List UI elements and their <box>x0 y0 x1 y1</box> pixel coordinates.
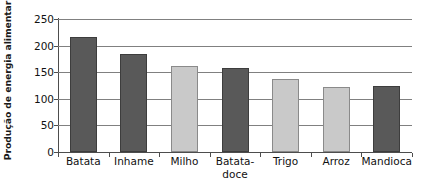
x-axis-line <box>58 152 412 153</box>
x-axis-category-label-line: doce <box>206 168 265 181</box>
y-axis-tick-label: 200 <box>18 40 54 51</box>
bar <box>323 87 350 152</box>
bar <box>171 66 198 152</box>
x-axis-category-label-line: Mandioca <box>357 155 416 168</box>
bar <box>120 54 147 152</box>
bar <box>222 68 249 152</box>
y-axis-tick-label: 100 <box>18 94 54 105</box>
y-axis-tick-label: 150 <box>18 67 54 78</box>
y-axis-title-text: Produção de energia alimentar <box>3 0 14 160</box>
y-axis-tick-label: 0 <box>18 147 54 158</box>
plot-area <box>58 19 412 152</box>
y-axis-tick-label: 50 <box>18 120 54 131</box>
x-axis-category-labels: BatataInhameMilhoBatata-doceTrigoArrozMa… <box>58 155 412 193</box>
bar <box>70 37 97 152</box>
x-axis-category-label: Mandioca <box>357 155 416 168</box>
y-axis-tick-label: 250 <box>18 14 54 25</box>
y-axis-tick-labels: 050100150200250 <box>18 0 54 160</box>
bars-layer <box>58 19 412 152</box>
bar <box>272 79 299 152</box>
bar <box>373 86 400 153</box>
bar-chart-figure: Produção de energia alimentar 0501001502… <box>0 0 421 193</box>
y-axis-title: Produção de energia alimentar <box>0 0 16 160</box>
